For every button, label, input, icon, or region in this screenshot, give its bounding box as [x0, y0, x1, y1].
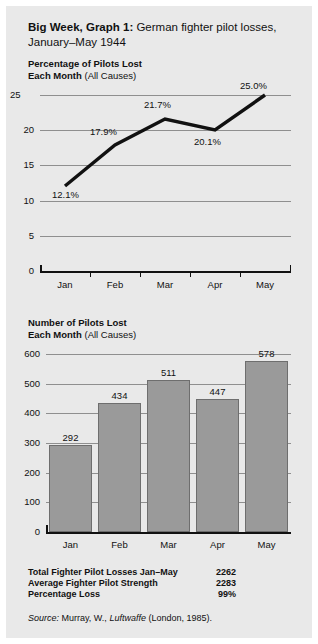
- x-tickmark-1: [90, 272, 91, 277]
- source-note: Source: Murray, W., Luftwaffe (London, 1…: [28, 613, 298, 624]
- ytick-label-10: 10: [10, 196, 34, 206]
- bar-x-label-may: May: [242, 540, 291, 550]
- bar-ytick-label-600: 600: [10, 349, 40, 359]
- line-chart-heading: Percentage of Pilots Lost Each Month (Al…: [28, 58, 142, 81]
- x-label-feb: Feb: [90, 280, 140, 290]
- x-tickmark-3: [190, 272, 191, 277]
- bar-value-feb: 434: [95, 391, 144, 401]
- line-chart-plot-area: 25 20 15 10 5 0 12.1% 17.9% 21.7% 20.1% …: [40, 95, 291, 271]
- x-label-may: May: [240, 280, 290, 290]
- bar-chart-heading-subtitle: (All Causes): [82, 329, 136, 340]
- bar-value-jan: 292: [46, 433, 95, 443]
- point-label-mar: 21.7%: [144, 100, 171, 110]
- stat-row-total-losses: Total Fighter Pilot Losses Jan–May 2262: [28, 567, 290, 578]
- bar-chart-heading-line2: Each Month: [28, 329, 82, 340]
- bar-jan: [49, 445, 92, 532]
- ytick-label-20: 20: [10, 125, 34, 135]
- figure-panel: Big Week, Graph 1: German fighter pilot …: [6, 6, 312, 638]
- ytick-label-0: 0: [10, 266, 34, 276]
- bar-x-label-jan: Jan: [46, 540, 95, 550]
- source-suffix: (London, 1985).: [146, 613, 212, 623]
- point-label-may: 25.0%: [240, 81, 267, 91]
- ytick-label-25: 25: [10, 90, 21, 100]
- stat-row-percentage-loss: Percentage Loss 99%: [28, 589, 290, 600]
- bar-x-label-apr: Apr: [193, 540, 242, 550]
- bar-feb: [98, 403, 141, 532]
- bar-ytick-label-100: 100: [10, 497, 40, 507]
- source-author: Murray, W.,: [59, 613, 109, 623]
- point-label-jan: 12.1%: [52, 190, 79, 200]
- bar-ytick-label-500: 500: [10, 379, 40, 389]
- bar-chart-heading: Number of Pilots Lost Each Month (All Ca…: [28, 317, 136, 340]
- bar-mar: [147, 380, 190, 532]
- line-chart-heading-subtitle: (All Causes): [82, 70, 136, 81]
- point-label-feb: 17.9%: [90, 127, 117, 137]
- x-label-apr: Apr: [190, 280, 240, 290]
- bar-ytick-label-200: 200: [10, 468, 40, 478]
- bar-apr: [196, 399, 239, 532]
- bar-x-label-feb: Feb: [95, 540, 144, 550]
- line-chart-heading-line1: Percentage of Pilots Lost: [28, 58, 142, 69]
- x-tickmark-4: [240, 272, 241, 277]
- x-axis-line: [40, 271, 291, 273]
- bar-ytick-label-400: 400: [10, 408, 40, 418]
- stat-value-total-losses: 2262: [192, 567, 236, 578]
- x-tickmark-2: [140, 272, 141, 277]
- bar-value-mar: 511: [144, 368, 193, 378]
- bar-chart-heading-line1: Number of Pilots Lost: [28, 317, 127, 328]
- source-work-title: Luftwaffe: [109, 613, 146, 623]
- stat-value-percentage-loss: 99%: [192, 589, 236, 600]
- x-label-jan: Jan: [40, 280, 90, 290]
- bar-x-axis-line: [46, 532, 291, 534]
- stat-label-total-losses: Total Fighter Pilot Losses Jan–May: [28, 567, 178, 578]
- stat-label-percentage-loss: Percentage Loss: [28, 589, 100, 600]
- bar-value-apr: 447: [193, 387, 242, 397]
- stat-value-average-strength: 2283: [192, 578, 236, 589]
- source-prefix: Source:: [28, 613, 59, 623]
- bar-y-axis-stub: [46, 525, 48, 534]
- bar-may: [245, 361, 288, 532]
- figure-title-bold: Big Week, Graph 1:: [28, 21, 133, 33]
- figure-title: Big Week, Graph 1: German fighter pilot …: [28, 20, 296, 49]
- line-series: [40, 95, 291, 271]
- point-label-apr: 20.1%: [194, 137, 221, 147]
- ytick-label-5: 5: [10, 231, 34, 241]
- line-chart-heading-line2: Each Month: [28, 70, 82, 81]
- ytick-label-15: 15: [10, 160, 34, 170]
- bar-x-label-mar: Mar: [144, 540, 193, 550]
- stat-row-average-strength: Average Fighter Pilot Strength 2283: [28, 578, 290, 589]
- bar-ytick-label-300: 300: [10, 438, 40, 448]
- bar-ytick-label-0: 0: [10, 527, 40, 537]
- bar-value-may: 578: [242, 349, 291, 359]
- bar-chart-plot-area: 600 500 400 300 200 100 0 292 434 511 44…: [46, 354, 291, 532]
- stat-label-average-strength: Average Fighter Pilot Strength: [28, 578, 158, 589]
- summary-stats: Total Fighter Pilot Losses Jan–May 2262 …: [28, 567, 290, 600]
- x-label-mar: Mar: [140, 280, 190, 290]
